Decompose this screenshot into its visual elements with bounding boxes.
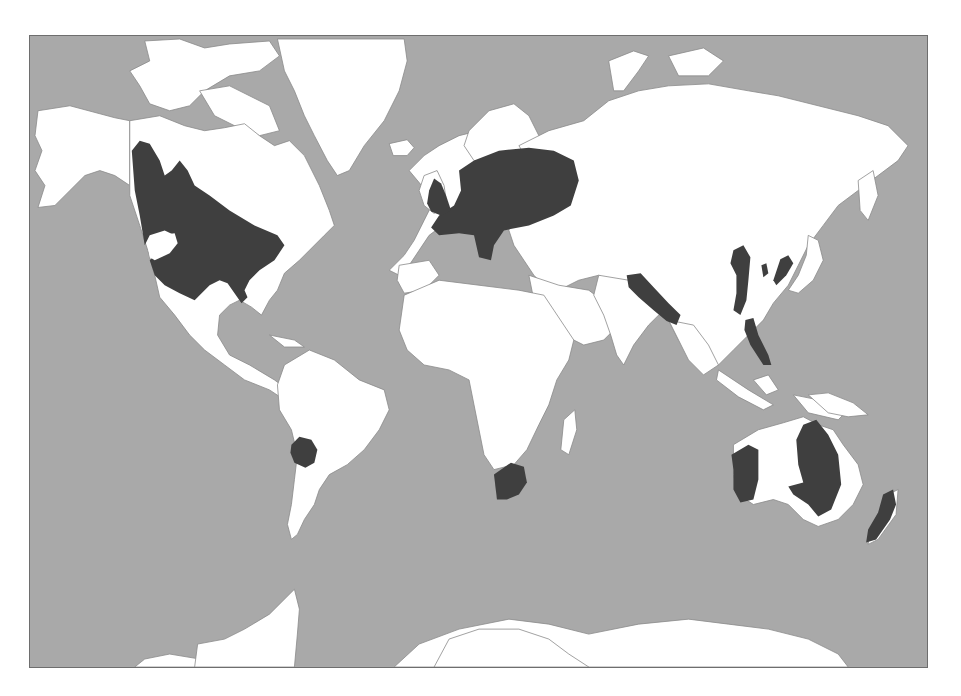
world-map <box>29 35 928 668</box>
map-canvas <box>30 36 927 667</box>
